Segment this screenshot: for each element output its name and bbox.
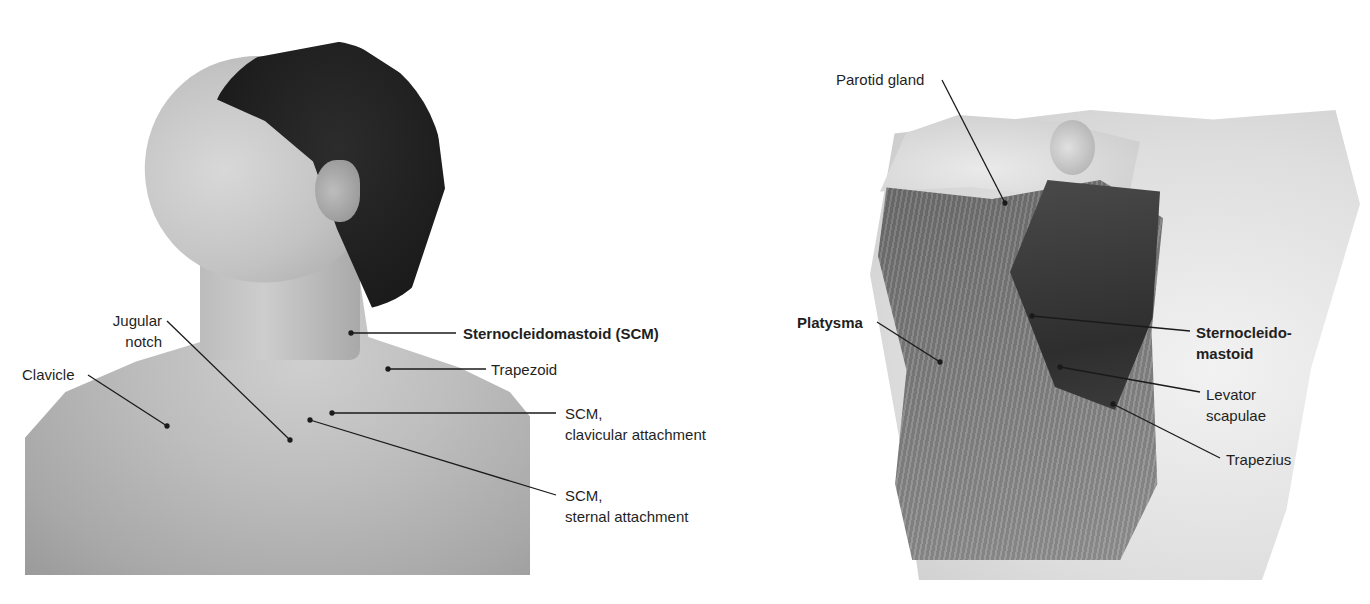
- label-trapezoid: Trapezoid: [491, 359, 557, 380]
- photo-ear: [315, 160, 360, 222]
- label-jugular-notch: Jugular notch: [100, 310, 162, 352]
- label-sternocleidomastoid-scm: Sternocleidomastoid (SCM): [463, 323, 659, 344]
- label-levator-scapulae: Levator scapulae: [1206, 384, 1266, 426]
- label-trapezius: Trapezius: [1226, 449, 1291, 470]
- label-scm-clavicular-attachment: SCM, clavicular attachment: [565, 403, 706, 445]
- illustration-ear: [1050, 120, 1095, 175]
- label-scm-sternal-attachment: SCM, sternal attachment: [565, 485, 688, 527]
- label-clavicle: Clavicle: [22, 364, 75, 385]
- label-sternocleidomastoid: Sternocleido- mastoid: [1196, 322, 1292, 364]
- label-parotid-gland: Parotid gland: [836, 69, 924, 90]
- illustration-panel: [760, 0, 1370, 604]
- label-platysma: Platysma: [797, 312, 863, 333]
